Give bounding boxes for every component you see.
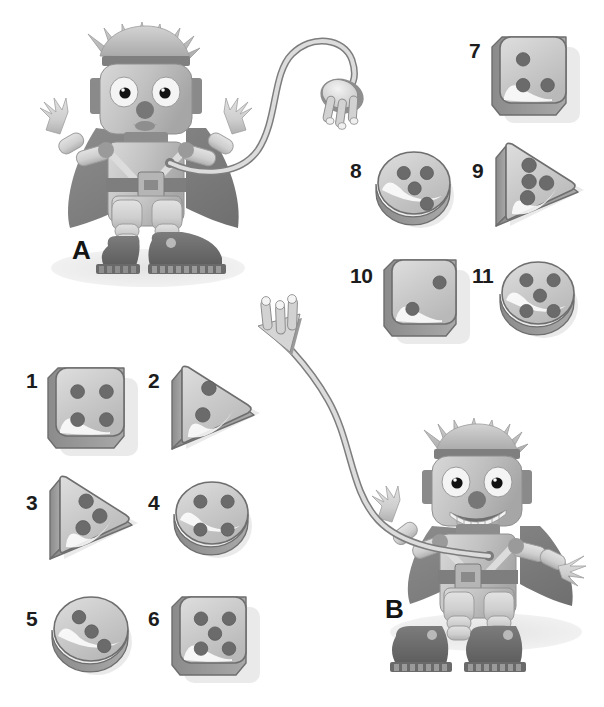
robot-label-a: A (72, 237, 91, 263)
shape-number-2: 2 (148, 370, 159, 391)
shape-3-dot-1 (79, 494, 93, 508)
robot-b-figure (258, 295, 586, 672)
shape-number-3: 3 (26, 492, 37, 513)
shape-1[interactable] (48, 368, 138, 456)
shape-11-dot-1 (520, 274, 533, 287)
shape-3-dot-3 (76, 521, 90, 535)
shape-6[interactable] (172, 597, 260, 683)
shape-10-dot-2 (406, 302, 419, 315)
shape-10[interactable] (384, 260, 470, 344)
robot-a-nose (136, 101, 154, 119)
shape-number-9: 9 (472, 160, 483, 181)
shape-11-dot-4 (520, 304, 533, 317)
shape-1-dot-1 (71, 385, 85, 399)
robot-a-pupil-right (159, 87, 170, 98)
shape-7-dot-1 (516, 53, 529, 66)
robot-a-eye-glint-right (161, 88, 165, 92)
shape-5-dot-2 (85, 625, 98, 638)
robot-a-boot-right (148, 232, 226, 274)
shape-2-dot-1 (202, 381, 216, 395)
robot-a-plug (316, 74, 368, 130)
shape-6-dot-1 (194, 612, 207, 625)
robot-b-buckle-inner (461, 572, 475, 582)
robot-b-plug (258, 295, 302, 356)
shape-11[interactable] (500, 262, 578, 338)
puzzle-canvas: 1234567891011AB (0, 0, 604, 707)
shape-4-dot-4 (221, 523, 234, 536)
shape-number-4: 4 (148, 492, 159, 513)
shape-2-dot-2 (196, 408, 210, 422)
shape-8-dot-2 (420, 166, 433, 179)
robot-b-eye-glint-left (453, 478, 457, 482)
shape-5-dot-1 (72, 610, 85, 623)
illustration-layer (0, 0, 604, 707)
robot-a-eye-glint-left (121, 88, 125, 92)
robot-b-pupil-right (491, 477, 502, 488)
shape-number-6: 6 (148, 608, 159, 629)
robot-a-mouth-fill (135, 121, 155, 131)
shape-4-dot-1 (194, 495, 207, 508)
robot-b-eye-glint-right (493, 478, 497, 482)
shape-8-dot-3 (408, 182, 421, 195)
shape-number-10: 10 (350, 265, 372, 286)
shape-8-dot-4 (420, 197, 433, 210)
robot-b-pupil-left (451, 477, 462, 488)
shape-number-5: 5 (26, 608, 37, 629)
robot-a-buckle-inner (144, 180, 158, 190)
shape-9-dot-4 (539, 176, 553, 190)
shape-11-dot-2 (547, 274, 560, 287)
shape-9-dot-2 (522, 174, 536, 188)
shape-4-dot-2 (221, 495, 234, 508)
shape-11-dot-5 (547, 304, 560, 317)
shape-7-dot-2 (516, 78, 529, 91)
shape-9[interactable] (496, 143, 584, 226)
robot-label-b: B (385, 596, 404, 622)
shape-5[interactable] (52, 597, 132, 675)
shape-1-dot-4 (100, 413, 114, 427)
shape-9-dot-3 (520, 191, 534, 205)
shape-7-dot-3 (541, 78, 554, 91)
robot-b-nose (468, 491, 486, 509)
robot-a-pupil-left (119, 87, 130, 98)
shape-number-1: 1 (26, 370, 37, 391)
shape-4[interactable] (174, 482, 252, 558)
shape-6-dot-5 (222, 642, 235, 655)
shape-8[interactable] (376, 152, 454, 228)
shape-10-dot-1 (433, 276, 446, 289)
shape-5-dot-3 (97, 639, 110, 652)
shape-6-dot-3 (208, 627, 221, 640)
shape-3-dot-2 (93, 509, 107, 523)
shape-9-dot-1 (522, 158, 536, 172)
shape-1-dot-3 (71, 413, 85, 427)
shape-4-dot-3 (194, 523, 207, 536)
robot-b-leg-left (444, 592, 474, 640)
shape-number-8: 8 (350, 160, 361, 181)
shape-number-11: 11 (472, 265, 493, 286)
shape-3[interactable] (50, 476, 138, 559)
shape-6-dot-4 (194, 642, 207, 655)
shape-6-dot-2 (222, 612, 235, 625)
shape-number-7: 7 (469, 40, 480, 61)
robot-b-boot-right (464, 626, 526, 672)
shape-8-dot-1 (397, 166, 410, 179)
robot-b-boot-left (390, 626, 452, 672)
shape-7[interactable] (492, 37, 580, 123)
shape-1-dot-2 (100, 385, 114, 399)
shape-11-dot-3 (533, 289, 546, 302)
robot-a-boot-left (96, 236, 140, 274)
shape-2[interactable] (172, 366, 260, 449)
